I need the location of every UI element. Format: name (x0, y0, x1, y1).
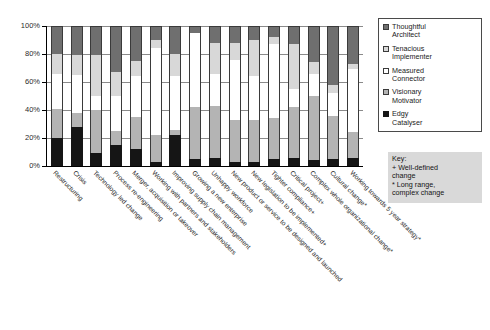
stacked-bar[interactable] (189, 26, 201, 166)
bar-segment-visionary-motivator (51, 109, 63, 138)
bar-slot (205, 26, 225, 166)
bar-slot (343, 26, 363, 166)
bar-slot (166, 26, 186, 166)
bar-segment-edgy-catalyser (308, 160, 320, 166)
stacked-bar[interactable] (288, 26, 300, 166)
bar-segment-visionary-motivator (308, 96, 320, 160)
y-tick-label: 20% (0, 134, 40, 142)
bar-segment-edgy-catalyser (71, 127, 83, 166)
bar-segment-visionary-motivator (327, 116, 339, 159)
bar-slot (304, 26, 324, 166)
bar-segment-measured-connector (150, 48, 162, 135)
y-tick-label: 40% (0, 106, 40, 114)
legend-item-thoughtful[interactable]: ThoughtfulArchitect (383, 23, 478, 40)
bar-segment-visionary-motivator (268, 118, 280, 159)
stacked-bar[interactable] (248, 26, 260, 166)
bar-segment-visionary-motivator (90, 110, 102, 153)
bar-segment-visionary-motivator (150, 135, 162, 162)
bar-segment-edgy-catalyser (169, 135, 181, 166)
bar-segment-measured-connector (71, 75, 83, 113)
bar-segment-thoughtful-architect (90, 26, 102, 55)
stacked-bar[interactable] (150, 26, 162, 166)
bar-slot (126, 26, 146, 166)
bar-segment-measured-connector (248, 76, 260, 119)
bar-segment-thoughtful-architect (229, 26, 241, 43)
bar-segment-tenacious-implementer (169, 54, 181, 76)
bar-segment-measured-connector (90, 96, 102, 110)
stacked-bar[interactable] (130, 26, 142, 166)
bar-segment-thoughtful-architect (209, 26, 221, 43)
bar-segment-measured-connector (189, 33, 201, 107)
x-axis-labels: RestructuringCrisisTechnology led change… (46, 167, 362, 317)
bar-segment-visionary-motivator (209, 106, 221, 158)
bar-slot (67, 26, 87, 166)
bar-segment-measured-connector (51, 74, 63, 109)
stacked-bar[interactable] (268, 26, 280, 166)
stacked-bar[interactable] (229, 26, 241, 166)
bar-segment-measured-connector (347, 69, 359, 132)
legend-label-line2: Motivator (392, 96, 422, 105)
y-tick-label: 0% (0, 162, 40, 170)
bar-segment-tenacious-implementer (71, 55, 83, 75)
legend-swatch-icon (383, 89, 389, 95)
legend-label: EdgyCatalyser (392, 110, 422, 127)
bar-segment-measured-connector (327, 93, 339, 115)
bar-segment-tenacious-implementer (130, 61, 142, 76)
x-axis-label: Crisis (71, 169, 88, 186)
bar-segment-edgy-catalyser (327, 159, 339, 166)
bar-slot (264, 26, 284, 166)
bar-segment-edgy-catalyser (150, 162, 162, 166)
bar-segment-edgy-catalyser (347, 158, 359, 166)
bar-segment-edgy-catalyser (288, 158, 300, 166)
bar-segment-tenacious-implementer (150, 40, 162, 48)
plot-area (46, 26, 363, 167)
stacked-bar[interactable] (90, 26, 102, 166)
bar-segment-thoughtful-architect (150, 26, 162, 40)
stacked-bar[interactable] (347, 26, 359, 166)
bar-segment-thoughtful-architect (71, 26, 83, 55)
stacked-bar[interactable] (308, 26, 320, 166)
legend-swatch-icon (383, 68, 389, 74)
bar-segment-edgy-catalyser (268, 159, 280, 166)
bar-segment-edgy-catalyser (209, 158, 221, 166)
bar-segment-tenacious-implementer (209, 43, 221, 74)
bar-segment-edgy-catalyser (110, 145, 122, 166)
bar-segment-tenacious-implementer (110, 72, 122, 96)
bar-slot (284, 26, 304, 166)
bar-segment-thoughtful-architect (288, 26, 300, 44)
bar-segment-thoughtful-architect (189, 26, 201, 33)
bar-slot (87, 26, 107, 166)
stacked-bar[interactable] (327, 26, 339, 166)
bar-slot (324, 26, 344, 166)
stacked-bar[interactable] (169, 26, 181, 166)
bar-segment-thoughtful-architect (51, 26, 63, 54)
key-box: Key: + Well-defined change * Long range,… (388, 152, 482, 203)
stacked-bar[interactable] (209, 26, 221, 166)
legend-swatch-icon (383, 46, 389, 52)
bar-segment-visionary-motivator (248, 120, 260, 162)
legend-label-line2: Connector (392, 74, 425, 83)
stacked-bar[interactable] (110, 26, 122, 166)
bar-segment-tenacious-implementer (327, 85, 339, 93)
bar-slot (146, 26, 166, 166)
bar-segment-tenacious-implementer (90, 55, 102, 96)
legend-item-edgy[interactable]: EdgyCatalyser (383, 110, 478, 127)
stacked-bar[interactable] (51, 26, 63, 166)
legend-item-tenacious[interactable]: TenaciousImplementer (383, 45, 478, 62)
legend-label-line2: Catalyser (392, 118, 422, 127)
bar-slot (225, 26, 245, 166)
bar-segment-tenacious-implementer (288, 44, 300, 89)
bar-segment-thoughtful-architect (130, 26, 142, 61)
legend-item-visionary[interactable]: VisionaryMotivator (383, 88, 478, 105)
legend-label: VisionaryMotivator (392, 88, 422, 105)
bar-group (47, 26, 363, 166)
stacked-bar[interactable] (71, 26, 83, 166)
bar-slot (106, 26, 126, 166)
legend-label: ThoughtfulArchitect (392, 23, 426, 40)
bar-segment-visionary-motivator (288, 107, 300, 157)
legend-label-line2: Architect (392, 30, 420, 39)
bar-segment-measured-connector (130, 76, 142, 117)
legend-item-measured[interactable]: MeasuredConnector (383, 67, 478, 84)
bar-segment-measured-connector (110, 96, 122, 131)
bar-segment-thoughtful-architect (308, 26, 320, 62)
